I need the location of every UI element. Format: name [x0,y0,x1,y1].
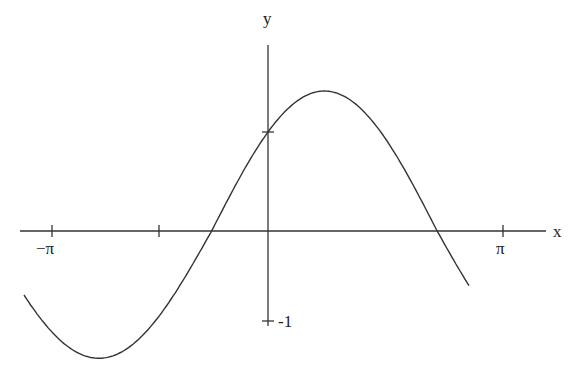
x-tick-label-pi: π [496,239,505,258]
y-tick-label-neg-one: -1 [278,312,292,331]
x-tick-label-neg-pi: −π [36,239,55,258]
function-curve [24,91,469,358]
x-axis-label: x [553,222,562,241]
function-plot: y x −π π -1 [0,0,586,371]
y-axis-label: y [263,9,272,28]
